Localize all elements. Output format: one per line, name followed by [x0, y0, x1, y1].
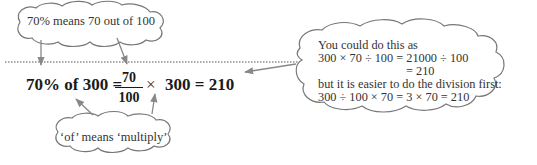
top-callout-text: 70% means 70 out of 100 [27, 14, 155, 29]
equation-right: 300 = 210 [165, 75, 234, 95]
fraction-numerator: 70 [115, 70, 143, 86]
bottom-callout-text: ‘of’ means ‘multiply’ [60, 130, 167, 145]
equation-left: 70% of 300 = [26, 75, 122, 95]
right-callout-text: You could do this as 300 × 70 ÷ 100 = 21… [318, 39, 502, 104]
fraction-denominator: 100 [115, 90, 143, 106]
arrow-to-of [76, 99, 93, 115]
fraction-bar [115, 87, 143, 88]
arrow-to-times [152, 94, 155, 114]
right-callout-line: 300 ÷ 100 × 70 = 3 × 70 = 210 [318, 91, 502, 104]
times-sign: × [146, 75, 156, 95]
arrow-to-result [245, 64, 296, 72]
fraction: 70 100 [115, 70, 143, 106]
